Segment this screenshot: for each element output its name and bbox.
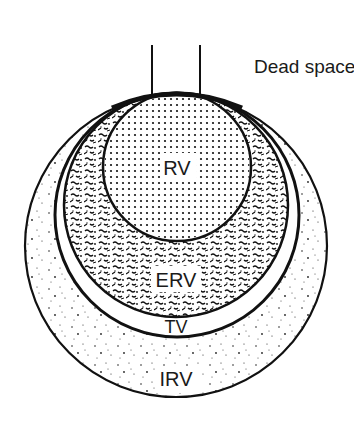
dead-space-tube xyxy=(152,45,200,95)
tv-label: TV xyxy=(164,317,187,337)
rv-label: RV xyxy=(163,157,191,179)
erv-label: ERV xyxy=(156,269,197,291)
dead-space-label: Dead space xyxy=(254,56,354,77)
lung-volume-diagram: Dead space RV ERV TV IRV xyxy=(0,0,354,424)
irv-label: IRV xyxy=(160,368,194,390)
